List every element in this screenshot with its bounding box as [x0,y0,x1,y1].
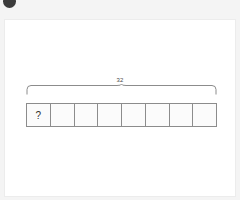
tape-cell [193,104,216,126]
tape-cell [51,104,75,126]
total-value-label: 32 [5,77,235,83]
tape-cell [75,104,99,126]
tape-bar: ? [26,103,217,127]
curly-brace-icon [26,84,217,95]
tape-cell [170,104,194,126]
tape-diagram: 32 ? [5,20,235,196]
tape-cell: ? [27,104,51,126]
tape-cell [98,104,122,126]
tape-cell [146,104,170,126]
content-card: 32 ? [4,19,236,197]
circle-bullet-marker-icon [3,0,16,8]
tape-cell [122,104,146,126]
